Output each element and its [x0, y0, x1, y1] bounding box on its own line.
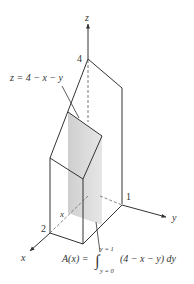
upper-limit: y = 1: [99, 245, 114, 252]
x-axis-label: x: [20, 252, 26, 263]
y-tick-1: 1: [126, 191, 131, 202]
z-axis-label: z: [84, 12, 89, 23]
z-tick-4: 4: [77, 53, 82, 64]
x-axis: [30, 233, 50, 251]
lower-limit: y = 0: [99, 267, 115, 274]
base-front-edge: [50, 233, 83, 244]
solid-diagram: z 4 z = 4 − x − y 1 y x 2 x A(x) = ∫ y =…: [0, 0, 194, 284]
integrand: (4 − x − y) dy: [120, 253, 177, 265]
slice-x-label: x: [59, 209, 64, 219]
y-axis: [122, 205, 166, 217]
surface-label: z = 4 − x − y: [9, 72, 64, 83]
formula-lhs: A(x) =: [61, 253, 88, 265]
base-hidden-y: [100, 196, 122, 205]
front-right-top: [102, 88, 122, 136]
x-tick-2: 2: [41, 223, 46, 234]
area-formula: A(x) = ∫ y = 1 y = 0 (4 − x − y) dy: [61, 245, 177, 274]
y-axis-label: y: [171, 212, 177, 223]
cross-section-slice: [68, 112, 102, 225]
